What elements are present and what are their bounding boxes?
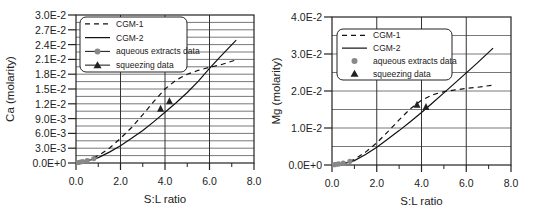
y-tick-label: 2.1E-2	[35, 53, 66, 65]
y-axis-label: Ca (molarity)	[4, 56, 16, 122]
legend-label: CGM-2	[116, 33, 144, 43]
aqueous-data-point	[341, 161, 346, 166]
legend-label: CGM-1	[373, 30, 401, 40]
y-tick-label: 2.7E-2	[35, 24, 66, 36]
y-tick-label: 9.0E-3	[35, 113, 66, 125]
x-tick-label: 6.0	[459, 177, 474, 189]
y-tick-label: 2.4E-2	[35, 39, 66, 51]
mg-chart: 0.02.04.06.08.00.0E+01.0E-22.0E-23.0E-24…	[266, 0, 533, 216]
aqueous-data-point	[91, 156, 96, 161]
figure: 0.02.04.06.08.00.0E+03.0E-36.0E-39.0E-31…	[0, 0, 533, 216]
aqueous-data-point	[85, 158, 90, 163]
legend-circle-icon	[95, 48, 101, 54]
legend-circle-icon	[352, 58, 358, 64]
aqueous-data-point	[347, 159, 352, 164]
y-tick-label: 3.0E-3	[35, 142, 66, 154]
squeezing-data-point	[157, 105, 164, 112]
aqueous-data-point	[336, 161, 341, 166]
y-tick-label: 3.0E-2	[35, 9, 66, 21]
legend-label: CGM-2	[373, 43, 401, 53]
x-tick-label: 0.0	[325, 177, 340, 189]
x-tick-label: 2.0	[369, 177, 384, 189]
cgm-1-line	[332, 85, 493, 165]
x-axis-label: S:L ratio	[400, 195, 442, 207]
y-tick-label: 4.0E-2	[291, 11, 322, 23]
legend-label: CGM-1	[116, 19, 144, 29]
y-tick-label: 1.5E-2	[35, 83, 66, 95]
x-tick-label: 8.0	[247, 175, 262, 187]
y-tick-label: 0.0E+0	[32, 157, 66, 169]
legend-label: squeezing data	[116, 60, 174, 70]
legend-label: aqueous extracts data	[116, 46, 200, 56]
y-axis-label: Mg (molarity)	[270, 57, 282, 124]
y-tick-label: 0.0E+0	[288, 159, 322, 171]
y-tick-label: 3.0E-2	[291, 48, 322, 60]
x-tick-label: 6.0	[202, 175, 217, 187]
aqueous-data-point	[80, 159, 85, 164]
y-tick-label: 1.8E-2	[35, 68, 66, 80]
legend-label: aqueous extracts data	[373, 56, 457, 66]
legend-label: squeezing data	[373, 69, 431, 79]
x-tick-label: 0.0	[69, 175, 84, 187]
x-tick-label: 2.0	[113, 175, 128, 187]
x-tick-label: 4.0	[414, 177, 429, 189]
x-axis-label: S:L ratio	[144, 193, 186, 205]
squeezing-data-point	[166, 97, 173, 104]
y-tick-label: 1.0E-2	[291, 122, 322, 134]
ca-chart: 0.02.04.06.08.00.0E+03.0E-36.0E-39.0E-31…	[0, 0, 266, 216]
x-tick-label: 8.0	[504, 177, 519, 189]
y-tick-label: 6.0E-3	[35, 127, 66, 139]
x-tick-label: 4.0	[158, 175, 173, 187]
y-tick-label: 2.0E-2	[291, 85, 322, 97]
y-tick-label: 1.2E-2	[35, 98, 66, 110]
